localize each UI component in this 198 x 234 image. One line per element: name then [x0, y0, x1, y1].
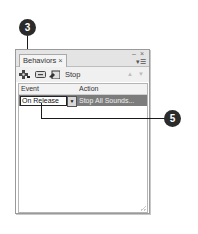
tab-behaviors[interactable]: Behaviors× [19, 54, 67, 67]
selected-instance-label: Stop [65, 70, 80, 79]
move-down-arrow-icon[interactable]: ▼ [138, 71, 144, 77]
tab-close-icon[interactable]: × [58, 56, 62, 65]
callout-5-leader-line-horizontal [41, 118, 165, 119]
event-dropdown-arrow-icon[interactable]: ▼ [67, 96, 77, 107]
panel-tab-bar: Behaviors× – × ▾☰ [16, 50, 149, 67]
table-header: Event Action [19, 84, 147, 95]
behaviors-panel: Behaviors× – × ▾☰ Stop ▲ ▼ Event Action … [15, 49, 150, 214]
event-field[interactable]: On Release [20, 96, 67, 106]
callout-5: 5 [164, 110, 181, 127]
callout-5-leader-line-vertical [41, 103, 42, 119]
column-header-event[interactable]: Event [21, 84, 39, 94]
move-up-arrow-icon[interactable]: ▲ [127, 71, 133, 77]
add-behavior-icon[interactable] [19, 70, 30, 79]
tab-label: Behaviors [23, 56, 56, 65]
behaviors-table: Event Action On Release ▼ Stop All Sound… [18, 83, 148, 213]
window-controls[interactable]: – × [132, 50, 145, 57]
resize-grip-icon[interactable] [140, 205, 146, 211]
table-row[interactable]: On Release ▼ Stop All Sounds... [19, 95, 147, 106]
remove-behavior-icon[interactable] [35, 70, 46, 79]
behaviors-toolbar: Stop ▲ ▼ [16, 67, 149, 82]
panel-menu-icon[interactable]: ▾☰ [136, 58, 146, 66]
callout-3: 3 [19, 19, 36, 36]
action-cell[interactable]: Stop All Sounds... [79, 96, 134, 105]
column-header-action[interactable]: Action [79, 84, 98, 94]
target-instance-icon[interactable] [49, 70, 60, 79]
